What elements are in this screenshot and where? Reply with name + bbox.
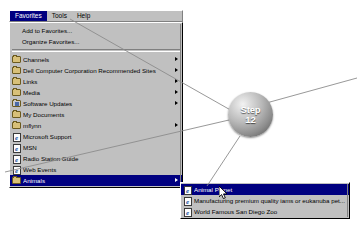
chevron-right-icon: [175, 90, 178, 94]
menu-item-channels-label: Channels: [23, 56, 182, 63]
menu-item-organize-favorites-label: Organize Favorites...: [10, 38, 182, 45]
mouse-cursor-icon: [219, 186, 230, 201]
chevron-right-icon: [175, 57, 178, 61]
favorites-dropdown-menu: Add to Favorites... Organize Favorites..…: [9, 22, 183, 188]
menu-item-animals[interactable]: Animals: [10, 175, 182, 186]
menu-item-web-events[interactable]: Web Events: [10, 164, 182, 175]
menu-item-software-updates-label: Software Updates: [23, 100, 182, 107]
menu-item-msn[interactable]: MSN: [10, 142, 182, 153]
submenu-item-san-diego-zoo[interactable]: World Famous San Diego Zoo: [181, 206, 349, 217]
folder-icon: [10, 109, 23, 120]
screenshot-root: Favorites Tools Help Add to Favorites...…: [0, 0, 357, 233]
menu-item-my-documents-label: My Documents: [23, 111, 182, 118]
menu-item-organize-favorites[interactable]: Organize Favorites...: [10, 36, 182, 47]
menu-item-links[interactable]: Links: [10, 76, 182, 87]
ie-page-icon: [181, 184, 194, 195]
menu-item-channels[interactable]: Channels: [10, 54, 182, 65]
ie-page-icon: [181, 206, 194, 217]
chevron-right-icon: [175, 101, 178, 105]
chevron-right-icon: [175, 68, 178, 72]
chevron-right-icon: [175, 123, 178, 127]
menu-item-add-to-favorites-label: Add to Favorites...: [10, 27, 182, 34]
ie-page-icon: [10, 164, 23, 175]
menu-item-radio-station-guide-label: Radio Station Guide: [23, 155, 182, 162]
menu-item-add-to-favorites[interactable]: Add to Favorites...: [10, 25, 182, 36]
step-callout-badge: Step 12: [228, 92, 273, 137]
menu-item-microsoft-support-label: Microsoft Support: [23, 133, 182, 140]
ie-page-icon: [181, 195, 194, 206]
step-callout-number: 12: [245, 115, 256, 125]
menu-item-links-label: Links: [23, 78, 182, 85]
menubar-item-favorites-label: Favorites: [15, 12, 42, 19]
menu-item-media[interactable]: Media: [10, 87, 182, 98]
menu-item-microsoft-support[interactable]: Microsoft Support: [10, 131, 182, 142]
folder-icon: [10, 54, 23, 65]
menu-separator: [12, 49, 180, 52]
chevron-right-icon: [175, 79, 178, 83]
folder-icon: [10, 120, 23, 131]
submenu-item-animal-planet[interactable]: Animal Planet: [181, 184, 349, 195]
folder-icon: [10, 76, 23, 87]
folder-special-icon: [10, 98, 23, 109]
ie-page-icon: [10, 153, 23, 164]
menu-item-media-label: Media: [23, 89, 182, 96]
submenu-item-animal-planet-label: Animal Planet: [194, 186, 349, 193]
menu-item-mflynn-label: mflynn: [23, 122, 182, 129]
chevron-right-icon: [175, 178, 178, 182]
menu-item-dell-recommended-sites[interactable]: Dell Computer Corporation Recommended Si…: [10, 65, 182, 76]
ie-page-icon: [10, 131, 23, 142]
menu-item-dell-recommended-sites-label: Dell Computer Corporation Recommended Si…: [23, 67, 182, 74]
submenu-item-iams-eukanuba-label: Manufacturing premium quality iams or eu…: [194, 197, 349, 204]
menubar-item-tools[interactable]: Tools: [47, 11, 72, 21]
menubar-item-help[interactable]: Help: [72, 11, 95, 21]
folder-icon: [10, 87, 23, 98]
menu-item-mflynn[interactable]: mflynn: [10, 120, 182, 131]
menu-item-msn-label: MSN: [23, 144, 182, 151]
menu-item-web-events-label: Web Events: [23, 166, 182, 173]
folder-icon: [10, 65, 23, 76]
menu-item-my-documents[interactable]: My Documents: [10, 109, 182, 120]
menu-item-software-updates[interactable]: Software Updates: [10, 98, 182, 109]
menubar-item-favorites[interactable]: Favorites: [10, 11, 47, 21]
folder-icon: [10, 175, 23, 186]
menubar-item-tools-label: Tools: [52, 12, 67, 19]
submenu-item-san-diego-zoo-label: World Famous San Diego Zoo: [194, 208, 349, 215]
submenu-item-iams-eukanuba[interactable]: Manufacturing premium quality iams or eu…: [181, 195, 349, 206]
menubar-item-help-label: Help: [77, 12, 90, 19]
menu-item-animals-label: Animals: [23, 177, 182, 184]
menu-bar: Favorites Tools Help: [9, 10, 183, 22]
ie-page-icon: [10, 142, 23, 153]
animals-submenu: Animal Planet Manufacturing premium qual…: [180, 182, 350, 219]
menu-item-radio-station-guide[interactable]: Radio Station Guide: [10, 153, 182, 164]
